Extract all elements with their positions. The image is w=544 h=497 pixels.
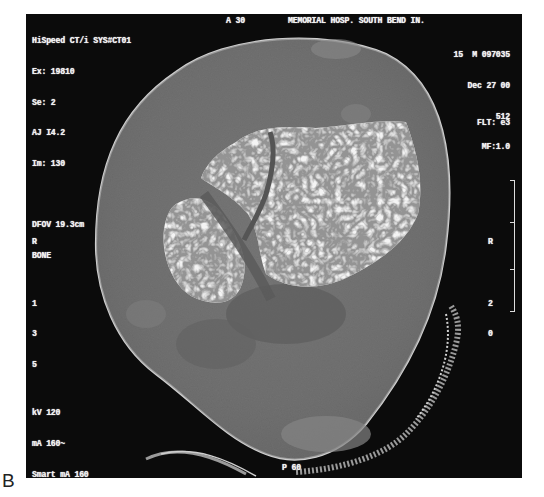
series-number: Se: 2 [32,98,131,108]
right-orientation-block: R 2 0 [488,217,507,360]
spacer [32,268,51,278]
scanner-model: HiSpeed CT/i SYS#CT01 [32,36,131,46]
left-digit-1: 1 [32,299,51,309]
spacer [488,268,507,278]
orientation-posterior: P 60 [282,463,301,473]
orientation-right-left: R [32,237,51,247]
orientation-anterior: A 30 [226,16,245,26]
institution-name: MEMORIAL HOSP. SOUTH BEND IN. [288,16,425,26]
right-digit-2: 0 [488,329,507,339]
panel-label: B [2,470,15,492]
left-digit-3: 5 [32,360,51,370]
magnification-factor: MF:1.0 [453,142,510,152]
smart-ma: Smart mA 160 [32,470,140,478]
patient-id: 15 M 097035 [453,50,510,60]
kv: kV 120 [32,408,140,418]
scale-tick [510,222,514,223]
scale-bar [510,180,515,312]
orientation-right-right: R [488,237,507,247]
exam-number: Ex: 19810 [32,67,131,77]
spacer [32,189,131,199]
slice-location: AJ I4.2 [32,128,131,138]
left-digit-2: 3 [32,329,51,339]
ct-scan-image: HiSpeed CT/i SYS#CT01 Ex: 19810 Se: 2 AJ… [26,14,522,478]
filter-label: FLT: e3 [477,118,510,128]
ma: mA 160~ [32,439,140,449]
left-orientation-block: R 1 3 5 [32,217,51,390]
image-number: Im: 130 [32,159,131,169]
acquisition-params-block: kV 120 mA 160~ Smart mA 160 Large \ 1.0 … [32,388,140,478]
right-digit-1: 2 [488,299,507,309]
scale-tick [510,269,514,270]
study-date: Dec 27 00 [453,81,510,91]
patient-info-block: 15 M 097035 Dec 27 00 512 MF:1.0 [453,30,510,173]
